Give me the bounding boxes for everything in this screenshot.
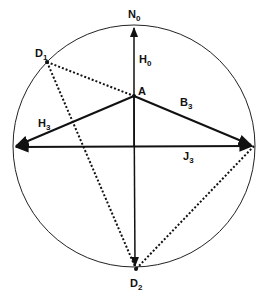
dotted-d1-a	[47, 62, 134, 96]
label-a: A	[138, 85, 146, 97]
label-h3: H3	[38, 117, 51, 132]
label-h0: H0	[139, 53, 152, 68]
label-b3: B3	[180, 96, 193, 111]
vector-down	[134, 96, 135, 266]
label-d2: D2	[130, 277, 143, 292]
label-n0: N0	[128, 8, 141, 23]
label-d1: D1	[35, 47, 48, 62]
vector-b3	[134, 96, 251, 145]
dotted-d1-d2	[47, 62, 136, 269]
label-j3: J3	[183, 150, 194, 165]
point-d2	[134, 267, 138, 271]
vector-h3	[16, 96, 134, 146]
geometry-diagram: N0 H0 A D1 B3 H3 J3 D2	[0, 0, 266, 302]
point-a	[132, 94, 136, 98]
